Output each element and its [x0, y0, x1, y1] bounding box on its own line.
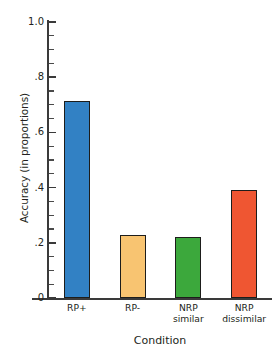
bar	[175, 237, 201, 298]
y-axis-minor-tick	[49, 228, 54, 229]
y-axis-minor-tick	[49, 173, 54, 174]
y-axis-minor-tick	[49, 159, 54, 160]
y-axis-minor-tick	[49, 118, 54, 119]
y-axis-tick-label: .2	[4, 238, 44, 248]
y-axis-minor-tick	[49, 270, 54, 271]
y-axis-minor-tick	[49, 256, 54, 257]
y-axis-minor-tick	[49, 284, 54, 285]
y-axis-minor-tick	[49, 90, 54, 91]
y-axis-minor-tick	[49, 49, 54, 50]
y-axis-major-tick	[49, 242, 56, 244]
y-axis-tick-label: .4	[4, 183, 44, 193]
x-axis-title: Condition	[48, 334, 272, 347]
bar-chart: Accuracy (in proportions) 0.2.4.6.81.0 R…	[0, 0, 280, 357]
y-axis-minor-tick	[49, 146, 54, 147]
y-axis-tick-label: 0	[4, 293, 44, 303]
bar	[231, 190, 257, 298]
y-axis-tick-label: 1.0	[4, 17, 44, 27]
x-axis-tick-label: NRPdissimilar	[209, 303, 279, 324]
y-axis-title: Accuracy (in proportions)	[18, 58, 30, 258]
y-axis-major-tick	[49, 132, 56, 134]
y-axis-minor-tick	[49, 35, 54, 36]
y-axis-major-tick	[49, 187, 56, 189]
y-axis-tick-label: .8	[4, 72, 44, 82]
bar	[64, 101, 90, 298]
y-axis-tick-label: .6	[4, 127, 44, 137]
x-axis-tick-label-line: NRP	[209, 303, 279, 314]
y-axis-major-tick	[49, 21, 56, 23]
y-axis-minor-tick	[49, 201, 54, 202]
y-axis-major-tick	[49, 76, 56, 78]
y-axis-major-tick	[49, 297, 56, 299]
x-axis-line	[32, 298, 272, 300]
y-axis-minor-tick	[49, 63, 54, 64]
y-axis-minor-tick	[49, 215, 54, 216]
bar	[120, 235, 146, 298]
y-axis-minor-tick	[49, 104, 54, 105]
x-axis-tick-label-line: dissimilar	[209, 314, 279, 325]
